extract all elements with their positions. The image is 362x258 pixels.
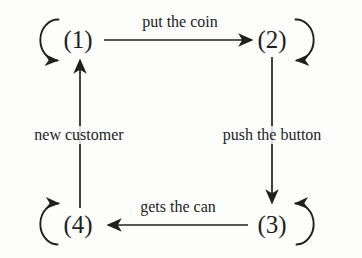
self-loop-state-2-path — [296, 19, 314, 60]
transition-label-gets-the-can: gets the can — [140, 198, 216, 216]
state-node-3: (3) — [257, 211, 286, 239]
self-loop-state-1-path — [40, 19, 58, 60]
state-node-4: (4) — [63, 211, 92, 239]
self-loop-state-3 — [296, 203, 314, 244]
state-diagram: (1) (2) (3) (4) put the coin push the bu… — [0, 0, 362, 258]
transition-label-push-the-button: push the button — [222, 126, 323, 144]
transition-label-put-the-coin: put the coin — [142, 13, 218, 31]
self-loop-state-1 — [40, 19, 58, 60]
state-node-2: (2) — [257, 26, 286, 54]
state-node-1: (1) — [63, 26, 92, 54]
self-loop-state-2 — [296, 19, 314, 60]
transition-label-new-customer: new customer — [33, 126, 124, 144]
self-loop-state-4 — [40, 203, 58, 244]
self-loop-state-4-path — [40, 203, 58, 244]
self-loop-state-3-path — [296, 203, 314, 244]
